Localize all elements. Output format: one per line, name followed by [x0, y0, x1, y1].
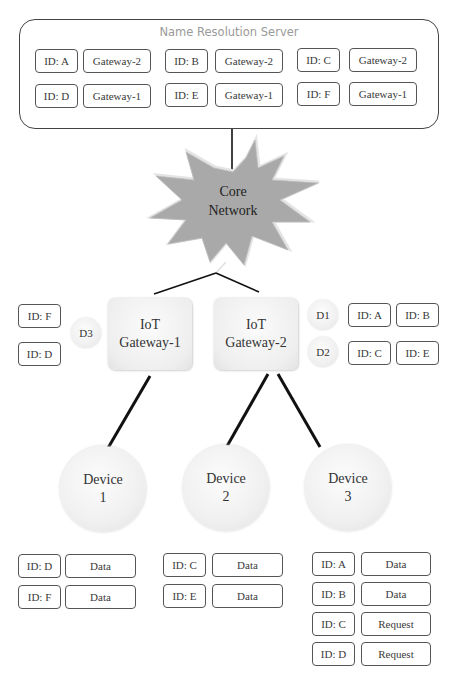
server-entry-id: ID: A [35, 49, 78, 73]
device1-table-id: ID: F [18, 585, 61, 609]
device-3: Device 3 [305, 445, 391, 531]
core-gateway1-link [154, 273, 216, 294]
device2-table-type: Data [212, 584, 283, 608]
device3-table-type: Request [361, 612, 431, 636]
server-entry-gateway: Gateway-2 [83, 49, 151, 73]
device-label-line2: 3 [345, 488, 352, 506]
device2-table-id: ID: E [163, 584, 206, 608]
gateway2-id-entry: ID: C [348, 341, 391, 365]
gateway2-id-entry: ID: A [348, 303, 391, 327]
gateway2-id-entry: ID: E [396, 341, 439, 365]
server-entry-gateway: Gateway-1 [215, 83, 283, 107]
gateway-label-line2: Gateway-1 [119, 334, 180, 352]
server-entry-gateway: Gateway-1 [349, 82, 417, 106]
device-label-line1: Device [328, 470, 368, 488]
gateway2-device3-link [278, 374, 320, 447]
device3-table-id: ID: C [312, 612, 355, 636]
device3-table-type: Request [361, 642, 431, 666]
core-network-line2: Network [193, 201, 273, 220]
device1-table-id: ID: D [18, 554, 61, 578]
device3-table-type: Data [361, 552, 431, 576]
gateway-label-line2: Gateway-2 [225, 334, 286, 352]
device-group-d1: D1 [308, 300, 338, 330]
device3-table-id: ID: B [312, 582, 355, 606]
gateway-label-line1: IoT [140, 316, 160, 334]
gateway2-id-entry: ID: B [396, 303, 439, 327]
device3-table-type: Data [361, 582, 431, 606]
core-gateway2-link [216, 273, 259, 292]
device2-table-type: Data [212, 553, 283, 577]
device3-table-id: ID: A [312, 552, 355, 576]
gateway1-device1-link [108, 376, 150, 448]
device3-table-id: ID: D [312, 642, 355, 666]
server-entry-id: ID: C [297, 48, 340, 72]
gateway-label-line1: IoT [246, 316, 266, 334]
gateway2-device2-link [226, 374, 268, 448]
server-entry-gateway: Gateway-2 [215, 49, 283, 73]
device-label-line1: Device [83, 471, 123, 489]
device-group-d3: D3 [71, 318, 101, 348]
iot-gateway-1: IoT Gateway-1 [108, 298, 192, 370]
server-entry-gateway: Gateway-2 [349, 48, 417, 72]
server-title: Name Resolution Server [19, 25, 439, 39]
gateway1-id-entry: ID: F [18, 304, 61, 328]
server-entry-id: ID: B [165, 49, 208, 73]
core-stem [216, 262, 226, 273]
device-label-line2: 1 [100, 489, 107, 507]
device-1: Device 1 [60, 446, 146, 532]
server-entry-id: ID: D [35, 84, 78, 108]
device2-table-id: ID: C [163, 553, 206, 577]
device-2: Device 2 [183, 445, 269, 531]
core-network-label: Core Network [193, 182, 273, 220]
iot-gateway-2: IoT Gateway-2 [214, 298, 298, 370]
device-label-line1: Device [206, 470, 246, 488]
device1-table-type: Data [65, 554, 136, 578]
core-network-line1: Core [193, 182, 273, 201]
server-entry-id: ID: E [165, 83, 208, 107]
device1-table-type: Data [65, 585, 136, 609]
device-group-d2: D2 [308, 337, 338, 367]
server-entry-gateway: Gateway-1 [83, 84, 151, 108]
server-entry-id: ID: F [297, 82, 340, 106]
gateway1-id-entry: ID: D [18, 342, 61, 366]
device-label-line2: 2 [223, 488, 230, 506]
